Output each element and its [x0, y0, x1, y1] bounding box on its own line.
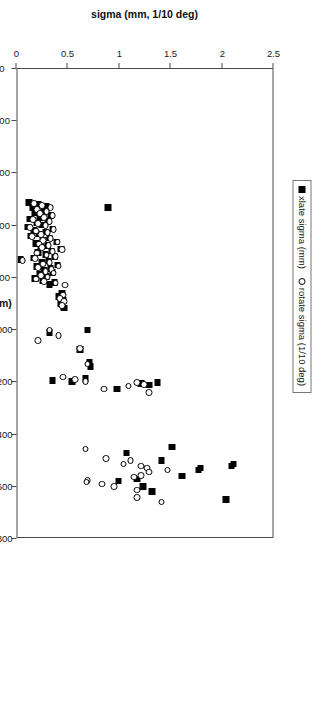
data-point-xlate-sigma — [168, 444, 175, 451]
x-axis-tick-label: 1600 — [0, 480, 12, 491]
data-point-rotate-sigma — [47, 235, 54, 242]
data-point-rotate-sigma — [46, 259, 53, 266]
data-point-xlate-sigma — [222, 496, 229, 503]
y-axis-tick — [169, 63, 170, 68]
data-point-rotate-sigma — [130, 474, 137, 481]
legend-entry-xlate-sigma: xlate sigma (mm) — [296, 186, 307, 269]
data-point-rotate-sigma — [137, 463, 144, 470]
data-point-rotate-sigma — [102, 455, 109, 462]
data-point-rotate-sigma — [76, 345, 83, 352]
y-axis-tick — [118, 63, 119, 68]
data-point-rotate-sigma — [55, 263, 62, 270]
x-axis-tick-label: 200 — [0, 115, 9, 126]
data-point-rotate-sigma — [120, 461, 127, 468]
data-point-rotate-sigma — [26, 224, 33, 231]
y-axis-tick-label: 2.5 — [264, 48, 282, 59]
y-axis-tick-label: 1 — [110, 48, 128, 59]
data-point-rotate-sigma — [145, 389, 152, 396]
data-point-rotate-sigma — [34, 337, 41, 344]
x-axis-tick-label: 1400 — [0, 428, 12, 439]
x-axis-tick — [11, 225, 16, 226]
data-point-rotate-sigma — [164, 467, 171, 474]
data-point-rotate-sigma — [71, 376, 78, 383]
x-axis-tick-label: 600 — [0, 219, 9, 230]
data-point-rotate-sigma — [137, 472, 144, 479]
data-point-xlate-sigma — [139, 483, 146, 490]
data-point-rotate-sigma — [61, 282, 68, 289]
y-axis-tick-label: 0.5 — [58, 48, 76, 59]
x-axis-tick — [11, 172, 16, 173]
y-axis-tick — [66, 63, 67, 68]
filled-square-icon — [298, 186, 305, 193]
data-point-rotate-sigma — [110, 483, 117, 490]
x-axis-tick — [11, 120, 16, 121]
y-axis-tick — [15, 63, 16, 68]
x-axis-title: IIVT_SII (mm) — [0, 297, 11, 309]
data-point-rotate-sigma — [34, 220, 41, 227]
data-point-rotate-sigma — [32, 276, 39, 283]
data-point-rotate-sigma — [133, 379, 140, 386]
data-point-rotate-sigma — [52, 253, 59, 260]
data-point-rotate-sigma — [55, 332, 62, 339]
y-axis-tick-label: 2 — [213, 48, 231, 59]
data-point-xlate-sigma — [84, 327, 91, 334]
y-axis-tick — [272, 63, 273, 68]
data-point-rotate-sigma — [133, 487, 140, 494]
data-point-rotate-sigma — [145, 469, 152, 476]
data-point-rotate-sigma — [28, 233, 35, 240]
x-axis-tick-label: 1000 — [0, 324, 12, 335]
data-point-rotate-sigma — [41, 278, 48, 285]
data-point-rotate-sigma — [34, 264, 41, 271]
x-axis-tick-label: 0 — [0, 63, 4, 74]
data-point-xlate-sigma — [123, 450, 130, 457]
data-point-rotate-sigma — [58, 302, 65, 309]
x-axis-tick-label: 800 — [0, 271, 9, 282]
data-point-xlate-sigma — [158, 457, 165, 464]
data-point-rotate-sigma — [82, 378, 89, 385]
data-point-rotate-sigma — [83, 479, 90, 486]
data-point-rotate-sigma — [84, 361, 91, 368]
x-axis-tick-label: 1800 — [0, 533, 12, 544]
data-point-rotate-sigma — [100, 386, 107, 393]
legend-label-rotate-sigma: rotate sigma (1/10 deg) — [296, 288, 307, 386]
x-axis-tick-label: 400 — [0, 167, 9, 178]
data-point-xlate-sigma — [104, 204, 111, 211]
data-point-rotate-sigma — [31, 255, 38, 262]
data-point-rotate-sigma — [50, 226, 57, 233]
data-point-rotate-sigma — [127, 457, 134, 464]
data-point-rotate-sigma — [82, 446, 89, 453]
x-axis-tick — [11, 68, 16, 69]
data-point-rotate-sigma — [158, 499, 165, 506]
data-point-xlate-sigma — [195, 467, 202, 474]
data-point-rotate-sigma — [59, 374, 66, 381]
data-point-rotate-sigma — [140, 381, 147, 388]
data-point-rotate-sigma — [133, 494, 140, 501]
data-point-xlate-sigma — [154, 379, 161, 386]
y-axis-tick-label: 0 — [7, 48, 25, 59]
y-axis-tick-label: 1.5 — [161, 48, 179, 59]
open-circle-icon — [298, 278, 305, 285]
data-point-rotate-sigma — [58, 246, 65, 253]
data-point-xlate-sigma — [228, 463, 235, 470]
x-axis-tick-label: 1200 — [0, 376, 12, 387]
plot-area — [16, 68, 273, 538]
y-axis-title: sigma (mm, 1/10 deg) — [91, 8, 198, 20]
data-point-canvas — [17, 69, 272, 537]
x-axis-tick — [11, 277, 16, 278]
data-point-rotate-sigma — [98, 481, 105, 488]
legend-entry-rotate-sigma: rotate sigma (1/10 deg) — [296, 278, 307, 386]
data-point-rotate-sigma — [42, 222, 49, 229]
data-point-rotate-sigma — [125, 383, 132, 390]
figure-rotation-wrapper: xlate sigma (mm) rotate sigma (1/10 deg)… — [0, 0, 323, 714]
chart-legend: xlate sigma (mm) rotate sigma (1/10 deg) — [292, 180, 311, 393]
data-point-rotate-sigma — [19, 257, 26, 264]
legend-label-xlate-sigma: xlate sigma (mm) — [296, 196, 307, 269]
scatter-plot-figure: xlate sigma (mm) rotate sigma (1/10 deg)… — [0, 0, 323, 714]
data-point-rotate-sigma — [43, 252, 50, 259]
data-point-xlate-sigma — [178, 473, 185, 480]
data-point-xlate-sigma — [148, 488, 155, 495]
y-axis-tick — [221, 63, 222, 68]
data-point-xlate-sigma — [49, 377, 56, 384]
data-point-xlate-sigma — [113, 386, 120, 393]
